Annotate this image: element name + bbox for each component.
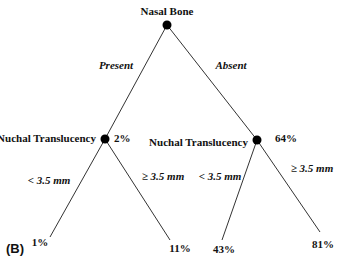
edge-absent-ge — [257, 140, 320, 232]
edge-present — [105, 25, 167, 139]
leaf-value-3: 43% — [213, 243, 235, 255]
edge-present-lt — [50, 139, 105, 237]
right-node-label: Nuchal Translucency — [149, 136, 248, 148]
edge-label-right-lt: < 3.5 mm — [199, 170, 242, 182]
left-node-value: 2% — [114, 132, 131, 144]
root-label: Nasal Bone — [141, 5, 194, 17]
root-node-dot — [163, 21, 172, 30]
edge-absent — [167, 25, 257, 140]
edge-absent-lt — [222, 140, 257, 240]
leaf-value-1: 1% — [32, 236, 49, 248]
edge-label-left-lt: < 3.5 mm — [28, 174, 71, 186]
leaf-value-4: 81% — [312, 238, 334, 250]
panel-label: (B) — [6, 241, 24, 256]
edge-present-ge — [105, 139, 170, 240]
leaf-value-2: 11% — [169, 242, 190, 254]
edge-label-left-ge: ≥ 3.5 mm — [142, 170, 185, 182]
edge-label-present: Present — [99, 59, 134, 71]
edge-label-absent: Absent — [214, 59, 247, 71]
left-node-dot — [101, 135, 110, 144]
right-node-dot — [253, 136, 262, 145]
right-node-value: 64% — [275, 132, 297, 144]
edge-label-right-ge: ≥ 3.5 mm — [291, 162, 334, 174]
decision-tree-diagram: Nasal Bone Present Absent Nuchal Translu… — [0, 0, 337, 263]
left-node-label: Nuchal Translucency — [0, 132, 96, 144]
